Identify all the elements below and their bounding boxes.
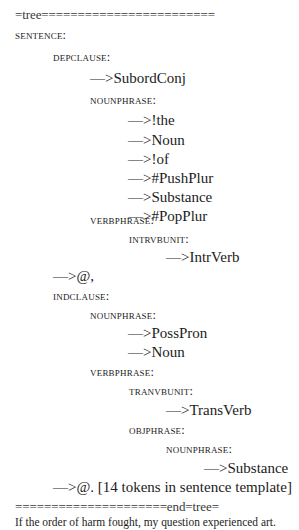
terminal-substance: —>Substance bbox=[128, 190, 212, 205]
node-indclause: INDCLAUSE: bbox=[53, 290, 109, 303]
node-nounphrase: NOUNPHRASE: bbox=[90, 94, 156, 107]
node-tranvbunit: TRANVBUNIT: bbox=[129, 385, 193, 398]
terminal-substance-2: —>Substance bbox=[204, 461, 288, 476]
terminal-pushplur: —>#PushPlur bbox=[128, 171, 213, 186]
tree-header-rule: =tree======================== bbox=[15, 8, 215, 21]
node-verbphrase-2: VERBPHRASE: bbox=[90, 366, 154, 379]
terminal-comma: —>@, bbox=[53, 269, 94, 284]
tree-footer-rule: =====================end=tree= bbox=[15, 500, 219, 513]
node-depclause: DEPCLAUSE: bbox=[53, 51, 110, 64]
generated-sentence: If the order of harm fought, my question… bbox=[15, 515, 276, 528]
terminal-period-summary: —>@. [14 tokens in sentence template] bbox=[53, 480, 292, 495]
node-verbphrase: VERBPHRASE: bbox=[90, 214, 154, 227]
terminal-transverb: —>TransVerb bbox=[166, 403, 251, 418]
terminal-noun: —>Noun bbox=[128, 133, 185, 148]
node-intrvbunit: INTRVBUNIT: bbox=[129, 233, 189, 246]
terminal-posspron: —>PossPron bbox=[128, 326, 207, 341]
node-sentence: SENTENCE: bbox=[15, 29, 66, 42]
terminal-of: —>!of bbox=[128, 152, 169, 167]
node-nounphrase-3: NOUNPHRASE: bbox=[166, 443, 232, 456]
node-nounphrase-2: NOUNPHRASE: bbox=[90, 309, 156, 322]
node-objphrase: OBJPHRASE: bbox=[129, 424, 185, 437]
terminal-the: —>!the bbox=[128, 113, 175, 128]
terminal-subordconj: —>SubordConj bbox=[90, 71, 186, 86]
terminal-intrverb: —>IntrVerb bbox=[166, 250, 239, 265]
terminal-noun-2: —>Noun bbox=[128, 345, 185, 360]
